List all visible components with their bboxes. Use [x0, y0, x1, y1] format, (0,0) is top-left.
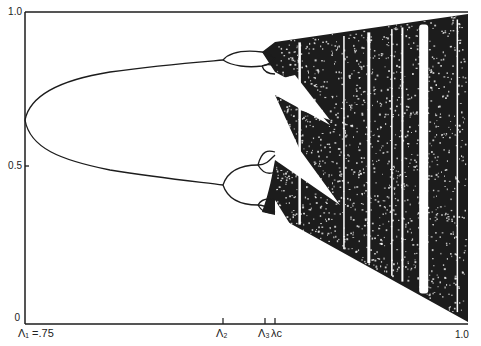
y-tick-label-05: 0.5 — [0, 161, 22, 171]
x-tick-label-lambdac: λc — [271, 328, 282, 339]
x-tick-label-lambda2: Λ₂ — [216, 328, 228, 339]
x-tick-label-lambda3: Λ₃ — [258, 328, 270, 339]
y-tick-label-1: 1.0 — [0, 7, 22, 17]
bifurcation-chart — [0, 0, 481, 346]
x-tick-label-lambda1: Λ₁ =.75 — [18, 328, 54, 339]
y-tick-label-0: 0 — [0, 313, 20, 323]
chaotic-region — [262, 14, 468, 322]
x-tick-label-end: 1.0 — [455, 330, 469, 340]
bifurcation-curves — [25, 51, 275, 212]
